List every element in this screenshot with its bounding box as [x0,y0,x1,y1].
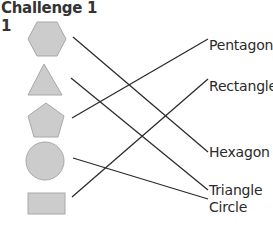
hexagon-shape[interactable] [28,22,66,56]
rectangle-shape[interactable] [28,193,65,214]
label-triangle: Triangle [209,182,262,198]
triangle-shape[interactable] [28,64,62,95]
pentagon-shape[interactable] [28,103,64,137]
line-rectangle-to-rectangle [72,79,208,197]
label-rectangle: Rectangle [209,78,273,94]
label-pentagon: Pentagon [209,37,273,53]
label-hexagon: Hexagon [209,144,270,160]
label-circle: Circle [209,199,247,215]
circle-shape[interactable] [26,142,64,180]
line-pentagon-to-pentagon [72,39,208,118]
